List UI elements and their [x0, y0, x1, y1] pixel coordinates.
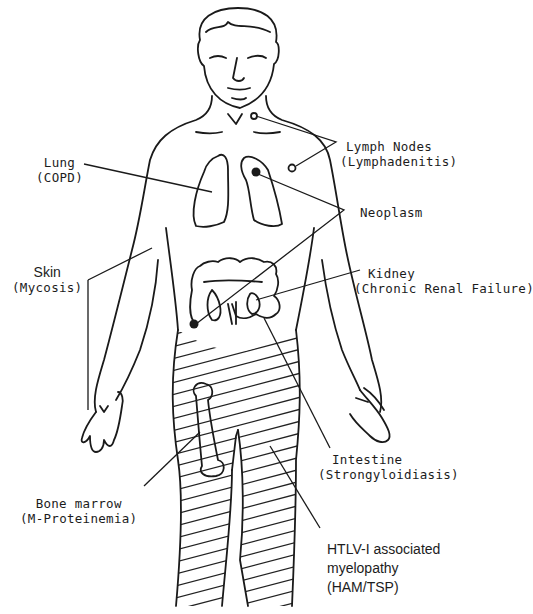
lymph-nodes-name: Lymph Nodes	[340, 139, 457, 154]
bone-marrow-condition: (M-Proteinemia)	[20, 511, 137, 526]
lymph-nodes-condition: (Lymphadenitis)	[340, 154, 457, 169]
intestine-name: Intestine	[318, 452, 459, 467]
label-lymph-nodes: Lymph Nodes (Lymphadenitis)	[340, 139, 457, 169]
neoplasm-name: Neoplasm	[360, 205, 423, 220]
skin-condition: (Mycosis)	[12, 280, 82, 295]
label-kidney: Kidney (Chronic Renal Failure)	[354, 266, 533, 296]
torso-outline	[95, 96, 382, 412]
bone-marrow-name: Bone marrow	[20, 496, 137, 511]
legs-hatched	[160, 296, 320, 614]
lung-condition: (COPD)	[36, 170, 83, 185]
kidney-name: Kidney	[354, 266, 533, 281]
ham-tsp-line2: myelopathy	[327, 559, 440, 578]
label-intestine: Intestine (Strongyloidiasis)	[318, 452, 459, 482]
label-neoplasm: Neoplasm	[360, 205, 423, 220]
label-lung: Lung (COPD)	[36, 155, 83, 185]
ham-tsp-line3: (HAM/TSP)	[327, 578, 440, 597]
intestine-condition: (Strongyloidiasis)	[318, 467, 459, 482]
kidney-condition: (Chronic Renal Failure)	[354, 281, 533, 296]
lung-name: Lung	[36, 155, 83, 170]
colon-tumor-dot	[190, 320, 199, 329]
ham-tsp-line1: HTLV-I associated	[327, 540, 440, 559]
head	[198, 8, 279, 108]
label-ham-tsp: HTLV-I associated myelopathy (HAM/TSP)	[327, 540, 440, 597]
skin-name: Skin	[12, 264, 82, 280]
label-bone-marrow: Bone marrow (M-Proteinemia)	[20, 496, 137, 526]
label-skin: Skin (Mycosis)	[12, 264, 82, 295]
